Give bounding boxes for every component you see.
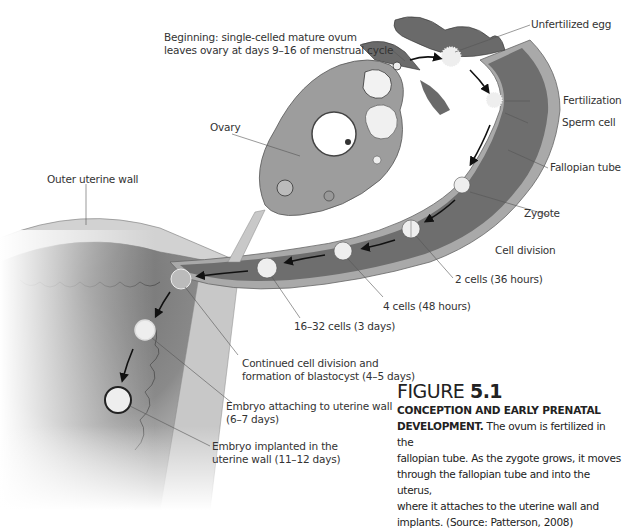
label-sixteen-cells: 16–32 cells (3 days) — [294, 320, 395, 333]
implanted-embryo-cell — [105, 387, 131, 413]
figure-title: FIGURE 5.1 — [397, 380, 621, 402]
label-cell-division: Cell division — [495, 244, 556, 257]
label-beginning: Beginning: single-celled mature ovum lea… — [164, 31, 393, 57]
figure-heading-line1: CONCEPTION AND EARLY PRENATAL — [397, 402, 621, 418]
label-blastocyst: Continued cell division and formation of… — [242, 357, 415, 383]
zygote-cell — [454, 177, 470, 193]
label-outer-uterine-wall: Outer uterine wall — [47, 173, 138, 186]
label-implanted-line1: Embryo implanted in the — [212, 440, 340, 453]
label-implanted: Embryo implanted in the uterine wall (11… — [212, 440, 340, 466]
figure-body-line: where it attaches to the uterine wall an… — [397, 498, 621, 514]
sixteen-cells-cell — [257, 258, 277, 278]
label-zygote: Zygote — [524, 207, 560, 220]
label-four-cells: 4 cells (48 hours) — [383, 300, 471, 313]
label-blastocyst-line2: formation of blastocyst (4–5 days) — [242, 370, 415, 383]
label-attaching-line1: Embryo attaching to uterine wall — [226, 400, 392, 413]
figure-body-line: through the fallopian tube and into the … — [397, 466, 621, 498]
label-ovary: Ovary — [210, 121, 240, 134]
fertilization-cell — [486, 92, 502, 108]
attaching-embryo-cell — [135, 320, 155, 340]
label-blastocyst-line1: Continued cell division and — [242, 357, 415, 370]
label-implanted-line2: uterine wall (11–12 days) — [212, 453, 340, 466]
label-attaching-line2: (6–7 days) — [226, 413, 392, 426]
four-cells-cell — [334, 242, 352, 260]
figure-word: FIGURE — [397, 380, 470, 402]
label-sperm-cell: Sperm cell — [562, 116, 616, 129]
label-attaching: Embryo attaching to uterine wall (6–7 da… — [226, 400, 392, 426]
blastocyst-cell — [171, 269, 191, 289]
unfertilized-egg-cell — [441, 47, 461, 67]
figure-number: 5.1 — [470, 380, 502, 402]
figure-body-line: implants. (Source: Patterson, 2008) — [397, 514, 621, 530]
label-fertilization: Fertilization — [563, 94, 622, 107]
label-unfertilized-egg: Unfertilized egg — [531, 18, 611, 31]
label-beginning-line1: Beginning: single-celled mature ovum — [164, 31, 393, 44]
figure-caption: FIGURE 5.1 CONCEPTION AND EARLY PRENATAL… — [397, 380, 621, 530]
figure-body-line: fallopian tube. As the zygote grows, it … — [397, 450, 621, 466]
label-fallopian-tube: Fallopian tube — [550, 161, 621, 174]
ovary — [259, 60, 403, 216]
label-two-cells: 2 cells (36 hours) — [455, 273, 543, 286]
figure-body-first: DEVELOPMENT. The ovum is fertilized in t… — [397, 418, 621, 450]
figure-heading-line2: DEVELOPMENT. — [397, 420, 484, 432]
label-beginning-line2: leaves ovary at days 9–16 of menstrual c… — [164, 44, 393, 57]
